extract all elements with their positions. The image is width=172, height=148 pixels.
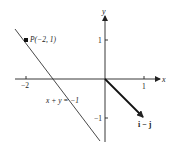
y-axis-label: y — [101, 7, 106, 16]
point-p-label: P(−2, 1) — [29, 35, 56, 44]
coordinate-diagram: x y −2 1 1 −1 P(−2, 1) x + y = −1 i − j — [0, 0, 172, 148]
x-tick-label-neg2: −2 — [21, 81, 29, 90]
point-p-marker — [24, 38, 28, 42]
line-equation-label: x + y = −1 — [45, 96, 79, 105]
x-axis-label: x — [161, 75, 166, 84]
x-tick-label-1: 1 — [142, 82, 146, 91]
y-tick-label-1: 1 — [98, 36, 102, 45]
vector-label: i − j — [138, 120, 152, 129]
vector-i-minus-j — [105, 79, 143, 117]
y-tick-label-neg1: −1 — [94, 114, 102, 123]
